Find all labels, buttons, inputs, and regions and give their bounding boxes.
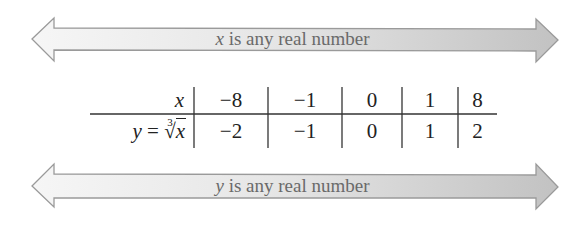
domain-variable: x: [215, 28, 223, 49]
row-header-y: y = 3√x: [86, 121, 186, 142]
y-value-cell: 0: [342, 121, 402, 142]
y-value-cell: 1: [402, 121, 458, 142]
x-value-cell: −8: [194, 90, 268, 111]
range-text: is any real number: [224, 175, 370, 196]
y-value-cell: −2: [194, 121, 268, 142]
y-value-cell: −1: [268, 121, 342, 142]
x-value-cell: −1: [268, 90, 342, 111]
x-value-cell: 0: [342, 90, 402, 111]
root-index: 3: [167, 117, 173, 128]
domain-text: is any real number: [224, 28, 370, 49]
x-value-cell: 8: [458, 90, 497, 111]
range-variable: y: [215, 175, 223, 196]
y-value-cell: 2: [458, 121, 497, 142]
range-label: y is any real number: [0, 176, 585, 195]
radicand: x: [176, 118, 186, 143]
row-header-y-lhs: y: [132, 119, 141, 143]
x-value-cell: 1: [402, 90, 458, 111]
cube-root-expression: 3√x: [164, 121, 186, 142]
domain-label: x is any real number: [0, 29, 585, 48]
equals-sign: =: [142, 119, 164, 143]
row-header-x: x: [90, 90, 184, 111]
